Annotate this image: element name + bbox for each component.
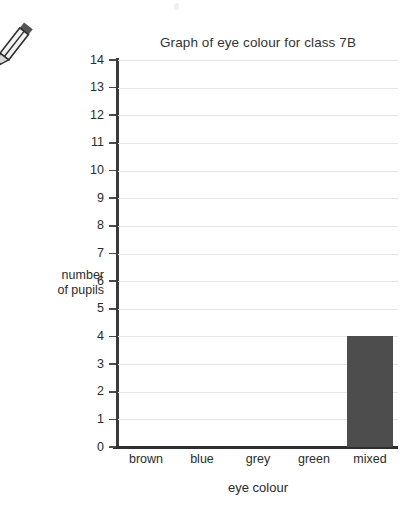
y-axis-tick (109, 308, 116, 310)
x-axis-tick-label: blue (174, 452, 230, 466)
y-axis-tick (109, 446, 116, 448)
bar[interactable] (347, 336, 393, 447)
x-axis-title: eye colour (118, 480, 398, 495)
y-axis-tick (109, 391, 116, 393)
x-axis-tick-label: mixed (342, 452, 398, 466)
y-axis-tick-label: 5 (60, 302, 104, 315)
y-axis-tick (109, 280, 116, 282)
y-axis-tick (109, 253, 116, 255)
gridline (118, 171, 398, 172)
y-axis-tick (109, 142, 116, 144)
y-axis-tick (109, 419, 116, 421)
y-axis-tick-label: 4 (60, 330, 104, 343)
chart-title: Graph of eye colour for class 7B (118, 35, 398, 50)
y-axis-tick (109, 170, 116, 172)
x-axis-tick-label: grey (230, 452, 286, 466)
y-axis-tick-label: 13 (60, 81, 104, 94)
gridline (118, 309, 398, 310)
y-axis-tick-label: 9 (60, 192, 104, 205)
y-axis-tick-label: 12 (60, 109, 104, 122)
y-axis-tick (109, 59, 116, 61)
plot-area (118, 60, 398, 447)
gridline (118, 88, 398, 89)
y-axis-tick-label: 14 (60, 54, 104, 67)
y-axis-tick-label: 8 (60, 219, 104, 232)
gridline (118, 115, 398, 116)
y-axis-tick-label: 7 (60, 247, 104, 260)
y-axis-tick (109, 336, 116, 338)
y-axis-tick (109, 363, 116, 365)
x-axis-tick-label: green (286, 452, 342, 466)
x-axis-tick-label: brown (118, 452, 174, 466)
y-axis-tick-label: 6 (60, 275, 104, 288)
gridline (118, 281, 398, 282)
y-axis-tick-label: 1 (60, 413, 104, 426)
y-axis-tick (109, 197, 116, 199)
y-axis-tick-label: 11 (60, 136, 104, 149)
y-axis-tick (109, 114, 116, 116)
y-axis-tick (109, 225, 116, 227)
gridline (118, 226, 398, 227)
gridline (118, 143, 398, 144)
bar-chart-figure: Graph of eye colour for class 7B number … (0, 0, 418, 517)
gridline (118, 60, 398, 61)
gridline (118, 254, 398, 255)
y-axis-tick-label: 2 (60, 385, 104, 398)
y-axis-tick-label: 3 (60, 358, 104, 371)
y-axis-tick-label: 0 (60, 441, 104, 454)
y-axis-tick (109, 87, 116, 89)
y-axis-tick-label: 10 (60, 164, 104, 177)
gridline (118, 198, 398, 199)
